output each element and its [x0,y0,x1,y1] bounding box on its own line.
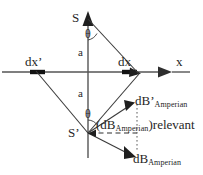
label-element-dx: dx [118,55,131,68]
label-field-dB-prime-main: dB’ [135,93,155,108]
diagram-canvas [0,0,203,175]
ray-s-prime-to-dx-prime [36,71,88,133]
label-field-dB-prime-subscript: Amperian [155,100,188,109]
label-field-dB-main: dB [133,151,148,166]
label-field-dB: dBAmperian [133,152,181,165]
ray-s-to-dx [88,19,139,74]
label-distance-bottom: a [78,88,83,99]
label-field-relevant-close: )relevant [148,117,194,132]
vector-dB-prime-arrowhead [124,100,135,111]
label-field-relevant-open: (dB [96,117,116,132]
label-field-relevant-component: (dBAmperian)relevant [96,118,195,131]
label-angle-bottom: θ [85,108,91,120]
label-field-dB-subscript: Amperian [148,158,181,167]
x-axis-arrowhead [158,67,172,78]
label-distance-top: a [78,47,83,58]
label-field-relevant-subscript: Amperian [116,124,149,133]
label-source-top: S [72,11,79,24]
label-element-dx-prime: dx’ [25,55,42,68]
label-source-bottom: S’ [68,126,80,139]
label-angle-top: θ [85,28,91,40]
label-axis-x: x [176,55,183,68]
label-field-dB-prime: dB’Amperian [135,94,187,107]
magnetic-field-vector-diagram: S S’ θ θ a a dx’ dx x dB’Amperian (dBAmp… [0,0,203,175]
